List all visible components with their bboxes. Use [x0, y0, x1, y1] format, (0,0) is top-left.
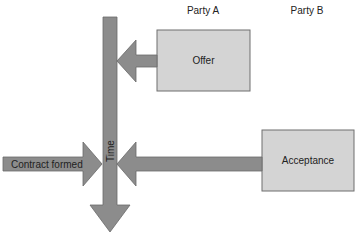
party-b-header: Party B	[291, 5, 324, 16]
acceptance-label: Acceptance	[282, 155, 335, 166]
time-arrow	[90, 17, 130, 232]
acceptance-arrow	[117, 142, 262, 186]
time-label: Time	[105, 140, 116, 162]
offer-arrow	[117, 40, 157, 82]
contract-formed-label: Contract formed	[11, 159, 83, 170]
contract-timeline-diagram: Party A Party B Time Offer Acceptance Co…	[0, 0, 358, 236]
offer-label: Offer	[192, 55, 215, 66]
party-a-header: Party A	[187, 5, 220, 16]
